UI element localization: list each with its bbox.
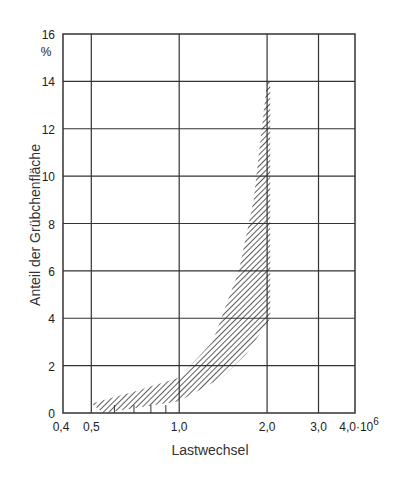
svg-text:6: 6	[48, 265, 55, 279]
svg-text:8: 8	[48, 218, 55, 232]
svg-text:2: 2	[48, 360, 55, 374]
svg-text:4: 4	[48, 312, 55, 326]
svg-text:0,5: 0,5	[83, 420, 100, 434]
x-axis-label: Lastwechsel	[171, 442, 248, 458]
svg-text:4,0·106: 4,0·106	[339, 416, 379, 434]
x-ticks: 0,40,51,02,03,04,0·106	[53, 416, 380, 434]
svg-text:14: 14	[42, 75, 56, 89]
svg-text:2,0: 2,0	[259, 420, 276, 434]
svg-text:16: 16	[42, 28, 56, 42]
y-ticks: 0246810121416	[42, 28, 56, 421]
svg-text:10: 10	[42, 170, 56, 184]
svg-text:0,4: 0,4	[53, 420, 70, 434]
hatched-band	[91, 81, 270, 413]
svg-text:3,0: 3,0	[310, 420, 327, 434]
svg-text:0: 0	[48, 407, 55, 421]
svg-text:12: 12	[42, 123, 56, 137]
svg-text:1,0: 1,0	[171, 420, 188, 434]
chart: 0,40,51,02,03,04,0·106 0246810121416 Las…	[0, 0, 396, 479]
y-axis-label: Anteil der Grübchenfläche	[27, 144, 43, 306]
y-unit: %	[41, 45, 52, 59]
